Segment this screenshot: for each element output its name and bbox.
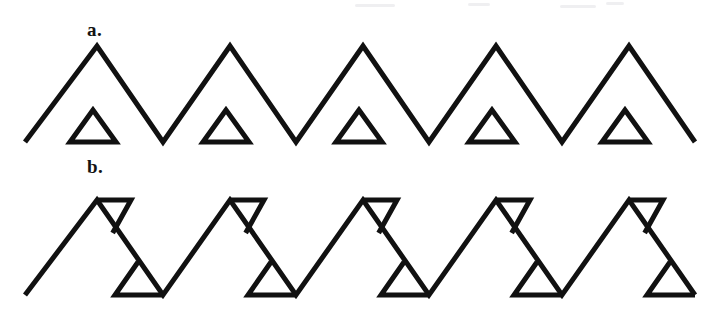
- panel-a-small-triangle: [602, 110, 648, 142]
- panel-a-small-triangle: [70, 110, 116, 142]
- panel-b-trough-triangle: [381, 262, 429, 295]
- panel-b-group: [25, 200, 695, 295]
- panel-b-trough-triangle: [647, 262, 695, 295]
- panel-a-small-triangle: [469, 110, 515, 142]
- panel-b-trough-triangle: [248, 262, 296, 295]
- panel-a-group: [25, 46, 695, 142]
- panel-a-zigzag-line: [25, 46, 695, 142]
- panel-b-trough-triangle: [115, 262, 163, 295]
- panel-a-small-triangle: [203, 110, 249, 142]
- panel-b-zigzag-with-triangles: [25, 200, 695, 295]
- panel-a-small-triangle: [336, 110, 382, 142]
- panel-b-trough-triangle: [514, 262, 562, 295]
- figure-drawing: [0, 0, 709, 309]
- figure-root: a. b.: [0, 0, 709, 309]
